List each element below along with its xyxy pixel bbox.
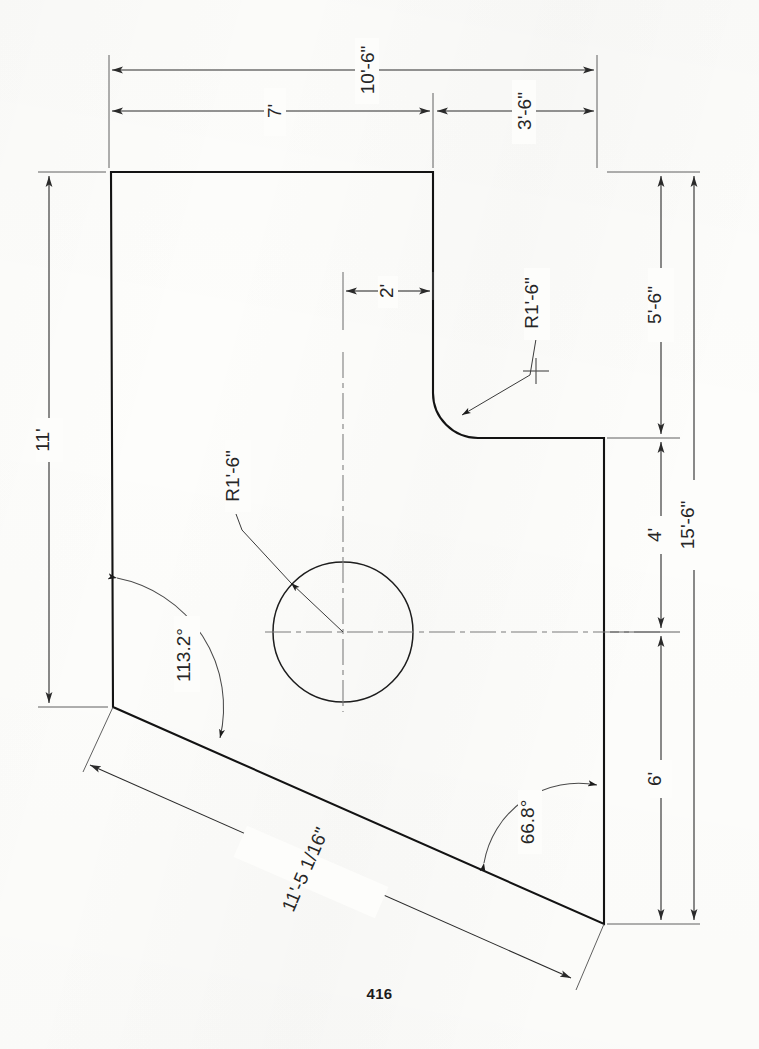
dimension-right-mid: 4' bbox=[644, 442, 672, 628]
dim-label-right-mid: 4' bbox=[644, 528, 665, 542]
dim-label-left: 11' bbox=[32, 428, 53, 451]
radius-leader-hole: R1'-6" bbox=[222, 440, 343, 632]
angle-lower-left: 113.2° bbox=[117, 578, 224, 738]
drawing-page: 10'-6" 7' 3'-6" 2' bbox=[0, 0, 759, 1049]
dimension-top-right: 3'-6" bbox=[437, 80, 594, 144]
dimension-right-bottom: 6' bbox=[644, 636, 672, 920]
radius-label-hole: R1'-6" bbox=[222, 450, 243, 502]
dim-label-top-overall: 10'-6" bbox=[357, 46, 378, 94]
page-number: 416 bbox=[0, 985, 759, 1002]
radius-leader-fillet: R1'-6" bbox=[462, 268, 550, 415]
angle-label-lower-left: 113.2° bbox=[173, 628, 194, 682]
dimension-left: 11' bbox=[32, 172, 108, 707]
dim-label-top-left: 7' bbox=[264, 104, 285, 118]
dim-label-top-right: 3'-6" bbox=[514, 92, 535, 130]
dim-label-right-bottom: 6' bbox=[644, 772, 665, 786]
dimension-right-top: 5'-6" bbox=[644, 176, 674, 434]
fillet-center-mark bbox=[523, 358, 549, 384]
dimension-top-left: 7' bbox=[112, 88, 430, 136]
dim-label-notch: 2' bbox=[376, 284, 397, 298]
angle-lower-right: 66.8° bbox=[484, 783, 597, 863]
radius-label-fillet: R1'-6" bbox=[521, 277, 542, 329]
dimension-right-overall: 15'-6" bbox=[677, 176, 707, 920]
dimension-notch: 2' bbox=[343, 272, 433, 330]
dim-label-right-overall: 15'-6" bbox=[677, 501, 698, 549]
dim-label-right-top: 5'-6" bbox=[644, 286, 665, 324]
technical-drawing-canvas: 10'-6" 7' 3'-6" 2' bbox=[0, 0, 759, 1049]
centerlines bbox=[265, 352, 660, 712]
angle-label-lower-right: 66.8° bbox=[517, 800, 538, 845]
